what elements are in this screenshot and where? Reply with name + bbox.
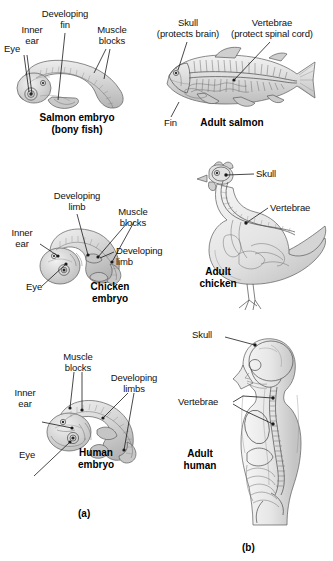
adult-human-leader-lines — [165, 320, 333, 561]
adult-salmon-leader-lines — [160, 0, 333, 135]
caption-adult-human: Adult human — [184, 448, 217, 471]
caption-human-embryo: Human embryo — [78, 447, 114, 470]
panel-label-a: (a) — [78, 508, 90, 519]
caption-chicken-embryo: Chicken embryo — [91, 281, 130, 304]
caption-adult-chicken: Adult chicken — [199, 266, 236, 289]
chicken-embryo-leader-lines — [0, 150, 180, 300]
caption-adult-salmon: Adult salmon — [200, 117, 263, 129]
salmon-embryo-leader-lines — [0, 0, 166, 130]
adult-chicken-leader-lines — [170, 150, 333, 325]
human-embryo-leader-lines — [0, 330, 180, 510]
caption-salmon-embryo: Salmon embryo (bony fish) — [39, 112, 114, 135]
panel-label-b: (b) — [242, 542, 255, 553]
comparative-embryology-figure: Developing fin Inner ear Muscle blocks E… — [0, 0, 333, 561]
